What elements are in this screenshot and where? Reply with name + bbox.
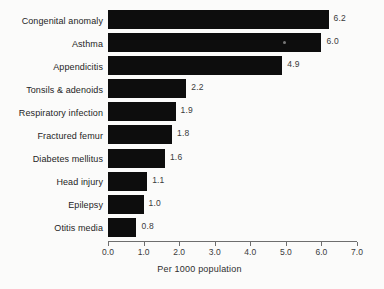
bar-value-label: 4.9 — [287, 59, 299, 69]
category-axis-labels: Congenital anomaly Asthma Appendicitis T… — [0, 9, 103, 241]
bar-value-label: 6.2 — [334, 13, 346, 23]
x-axis-tick — [215, 242, 216, 246]
bar — [108, 195, 144, 214]
bar — [108, 125, 172, 144]
bar — [108, 10, 329, 29]
bar — [108, 102, 176, 121]
category-label-row: Fractured femur — [0, 124, 103, 147]
bar-value-label: 1.6 — [170, 152, 182, 162]
bar-value-label: 6.0 — [326, 36, 338, 46]
category-label-row: Respiratory infection — [0, 101, 103, 124]
bar — [108, 149, 165, 168]
bar — [108, 33, 321, 52]
bar-row: 1.6 — [108, 148, 357, 171]
x-axis-tick — [108, 242, 109, 246]
category-label-row: Asthma — [0, 32, 103, 55]
x-axis-tick-label: 4.0 — [244, 247, 256, 257]
x-axis-title: Per 1000 population — [0, 264, 384, 274]
bar-row: 4.9 — [108, 55, 357, 78]
x-axis-tick — [250, 242, 251, 246]
bar-row: 6.2 — [108, 9, 357, 32]
plot-area: 6.2 6.0 4.9 2.2 1.9 1.8 1.6 1.1 — [108, 9, 357, 241]
category-label: Diabetes mellitus — [33, 154, 103, 164]
bar-value-label: 0.8 — [141, 221, 153, 231]
x-axis-tick-label: 3.0 — [209, 247, 221, 257]
category-label: Fractured femur — [37, 131, 103, 141]
x-axis-tick — [321, 242, 322, 246]
bar — [108, 56, 282, 75]
bar — [108, 79, 186, 98]
category-label: Head injury — [56, 177, 103, 187]
category-label-row: Tonsils & adenoids — [0, 78, 103, 101]
category-label: Appendicitis — [53, 62, 103, 72]
bar-row: 6.0 — [108, 32, 357, 55]
bar-value-label: 1.9 — [181, 105, 193, 115]
x-axis-tick-label: 2.0 — [173, 247, 185, 257]
x-axis-tick-label: 5.0 — [280, 247, 292, 257]
x-axis-tick-label: 1.0 — [138, 247, 150, 257]
bar-row: 1.9 — [108, 101, 357, 124]
category-label-row: Head injury — [0, 171, 103, 194]
x-axis-tick — [357, 242, 358, 246]
category-label: Asthma — [72, 39, 103, 49]
x-axis-tick-label: 7.0 — [351, 247, 363, 257]
category-label-row: Epilepsy — [0, 194, 103, 217]
x-axis-tick — [286, 242, 287, 246]
bar-row: 2.2 — [108, 78, 357, 101]
category-label-row: Otitis media — [0, 217, 103, 240]
category-label: Congenital anomaly — [22, 16, 103, 26]
bar-chart: Congenital anomaly Asthma Appendicitis T… — [0, 0, 384, 289]
bar-row: 0.8 — [108, 217, 357, 240]
x-axis-tick-label: 0.0 — [102, 247, 114, 257]
x-axis-tick — [144, 242, 145, 246]
x-axis-title-text: Per 1000 population — [157, 264, 241, 274]
x-axis-tick — [179, 242, 180, 246]
category-label: Epilepsy — [68, 200, 103, 210]
x-axis-line — [108, 241, 357, 242]
category-label: Tonsils & adenoids — [26, 85, 103, 95]
category-label-row: Diabetes mellitus — [0, 148, 103, 171]
bar — [108, 172, 147, 191]
bar-row: 1.0 — [108, 194, 357, 217]
category-label: Otitis media — [54, 223, 103, 233]
bar-value-label: 1.8 — [177, 128, 189, 138]
bar-value-label: 1.0 — [149, 198, 161, 208]
bar — [108, 218, 136, 237]
category-label-row: Appendicitis — [0, 55, 103, 78]
bar-value-label: 2.2 — [191, 82, 203, 92]
bar-value-label: 1.1 — [152, 175, 164, 185]
bar-row: 1.8 — [108, 124, 357, 147]
x-axis-tick-label: 6.0 — [316, 247, 328, 257]
category-label: Respiratory infection — [19, 108, 103, 118]
bar-row: 1.1 — [108, 171, 357, 194]
category-label-row: Congenital anomaly — [0, 9, 103, 32]
